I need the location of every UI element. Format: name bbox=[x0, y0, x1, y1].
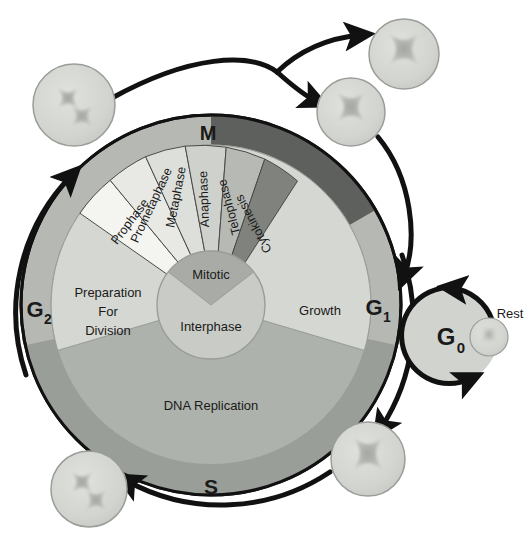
ring-label-m: M bbox=[200, 122, 217, 144]
svg-text:0: 0 bbox=[457, 339, 465, 356]
center-interphase-label: Interphase bbox=[180, 319, 241, 334]
svg-text:Division: Division bbox=[85, 323, 131, 338]
diagram-canvas: Mitotic Interphase Growth DNA Replicatio… bbox=[0, 0, 532, 534]
division-arrows bbox=[112, 35, 360, 101]
svg-text:Preparation: Preparation bbox=[74, 285, 141, 300]
svg-text:For: For bbox=[98, 304, 118, 319]
mitotic-label-anaphase: Anaphase bbox=[196, 171, 212, 228]
arrow-division-down bbox=[277, 72, 316, 101]
g0-rest-label: Rest bbox=[497, 306, 524, 321]
quadrant-label-dna-replication: DNA Replication bbox=[164, 398, 259, 413]
quadrant-label-growth: Growth bbox=[299, 303, 341, 318]
svg-text:2: 2 bbox=[44, 311, 52, 327]
cell-g0 bbox=[470, 318, 508, 356]
cell-bottom-right bbox=[331, 422, 405, 496]
arrow-division-up bbox=[277, 35, 360, 72]
cell-cycle-diagram: Mitotic Interphase Growth DNA Replicatio… bbox=[0, 0, 532, 534]
center-mitotic-label: Mitotic bbox=[192, 267, 230, 282]
svg-text:G: G bbox=[365, 295, 382, 320]
cell-top-right bbox=[369, 19, 439, 89]
cell-top-left bbox=[33, 64, 115, 146]
svg-text:G: G bbox=[437, 323, 456, 350]
cell-mid-right bbox=[317, 78, 385, 146]
svg-text:G: G bbox=[26, 297, 43, 322]
cell-bottom-left bbox=[51, 451, 127, 527]
svg-text:1: 1 bbox=[383, 309, 391, 325]
arrow-division-trunk bbox=[112, 60, 277, 98]
ring-label-s: S bbox=[204, 475, 218, 498]
